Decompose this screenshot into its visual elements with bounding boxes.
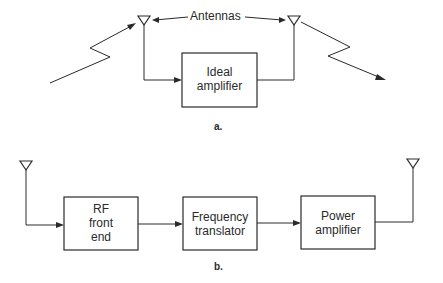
arrowhead-icon	[279, 17, 286, 23]
label-line: Ideal	[182, 65, 257, 79]
antenna-icon	[407, 159, 419, 168]
arrowhead-icon	[375, 74, 386, 80]
connector-line	[144, 25, 180, 80]
arrowhead-icon	[174, 77, 182, 83]
annotation-leader	[245, 17, 282, 20]
connector-line	[257, 25, 294, 80]
caption-a: a.	[214, 121, 222, 132]
antenna-icon	[20, 161, 32, 170]
label-line: RF	[64, 202, 138, 216]
power-amplifier-label: Power amplifier	[301, 209, 375, 237]
label-line: amplifier	[301, 223, 375, 237]
connector-line	[26, 170, 62, 225]
diagram-a	[50, 16, 386, 107]
arrowhead-icon	[152, 17, 159, 23]
label-line: Power	[301, 209, 375, 223]
label-line: end	[64, 230, 138, 244]
arrowhead-icon	[175, 221, 183, 227]
antennas-annotation: Antennas	[188, 9, 243, 23]
label-line: front	[64, 216, 138, 230]
arrowhead-icon	[293, 220, 301, 226]
antenna-icon	[138, 16, 150, 25]
outgoing-signal-zigzag	[301, 22, 381, 78]
annotation-leader	[155, 17, 188, 20]
label-line: Frequency	[183, 210, 257, 224]
rf-front-end-label: RF front end	[64, 202, 138, 244]
label-line: translator	[183, 224, 257, 238]
connector-line	[375, 168, 413, 222]
label-line: amplifier	[182, 79, 257, 93]
ideal-amplifier-label: Ideal amplifier	[182, 65, 257, 93]
frequency-translator-label: Frequency translator	[183, 210, 257, 238]
arrowhead-icon	[127, 23, 136, 30]
antenna-icon	[288, 16, 300, 25]
incoming-signal-zigzag	[50, 25, 133, 83]
caption-b: b.	[214, 261, 223, 272]
arrowhead-icon	[56, 222, 64, 228]
